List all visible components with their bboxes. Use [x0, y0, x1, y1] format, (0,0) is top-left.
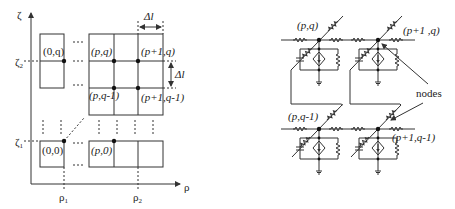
label-p-q1: (p,q-1): [89, 89, 120, 102]
zeta-axis-label: ζ: [17, 9, 22, 22]
circuit-node-p-q: [317, 38, 321, 42]
circuit-label-p-q: (p,q): [297, 19, 318, 32]
delta-l-vertical-label: Δl: [174, 68, 185, 80]
rho1-label: ρ1: [59, 191, 69, 205]
circuit-label-p1-q: (p+1 ,q): [403, 24, 440, 37]
label-p-0: (p,0): [91, 144, 112, 157]
circuit-node-p1-q1: [376, 127, 380, 131]
node-p1-q1: [136, 86, 140, 90]
node-p-q: [112, 59, 116, 63]
zeta1-label: ζ1: [15, 136, 24, 150]
grid-diagram: ζ ρ ζ2 ζ1 ρ1 ρ2: [15, 9, 190, 205]
circuit-label-p1-q1: (p+1,q-1): [392, 131, 435, 144]
node-0-0: [62, 139, 66, 143]
node-p-0: [112, 139, 116, 143]
diagram-canvas: ζ ρ ζ2 ζ1 ρ1 ρ2: [0, 0, 455, 209]
label-p-q: (p,q): [91, 45, 112, 58]
circuit-node-p-q1: [317, 127, 321, 131]
circuit-label-p-q1: (p,q-1): [288, 110, 319, 123]
rho-axis-label: ρ: [184, 181, 190, 193]
label-p1-q1: (p+1,q-1): [141, 91, 184, 104]
delta-l-horizontal-label: Δl: [143, 10, 154, 22]
node-p1-q: [136, 59, 140, 63]
nodes-pointer-top-icon: [382, 44, 428, 84]
circuit-node-p1-q: [376, 38, 380, 42]
zeta2-label: ζ2: [15, 56, 24, 70]
nodes-pointer-bottom-icon: [391, 103, 423, 120]
rho2-label: ρ2: [133, 191, 143, 205]
nodes-label: nodes: [416, 87, 442, 99]
label-0-q: (0,q): [43, 45, 64, 58]
label-0-0: (0,0): [42, 144, 63, 157]
node-0-q: [62, 59, 66, 63]
label-p1-q: (p+1,q): [141, 45, 175, 58]
circuit-diagram: (p,q) (p+1 ,q) (p,q-1) (p+1,q-1) nodes: [281, 16, 442, 174]
